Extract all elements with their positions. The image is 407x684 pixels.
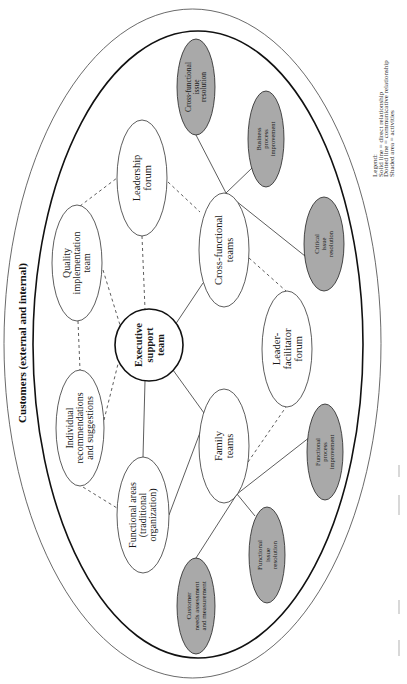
activity-functional-process-improvement[interactable]: Functional process improvement [307,404,343,500]
node-label: issue [320,237,327,250]
node-label: Leader- [271,332,282,365]
node-label: support [144,327,155,363]
node-label: teams [224,434,235,459]
node-label: team [155,334,166,356]
node-label: resolution [327,230,334,257]
node-label: and suggestions [84,396,95,460]
node-individual-recommendations[interactable]: Individual recommendations and suggestio… [56,370,104,486]
node-label: Family [213,430,224,461]
caption-marks [398,465,400,656]
node-label: process [321,442,328,462]
node-functional-areas[interactable]: Functional areas (traditional organizati… [117,457,169,573]
node-executive-support-team[interactable]: Executive support team [115,309,183,381]
node-label: resolution [271,541,279,569]
node-label: teams [224,238,235,263]
legend: Legend: Solid line = direct relationship… [371,60,396,177]
legend-line-shaded: Shaded area = activities [388,110,396,177]
node-label: forum [293,336,304,362]
node-label: and measurement [200,581,208,630]
node-label: Functional [314,438,321,466]
node-label: forum [142,165,153,191]
activity-functional-issue-resolution[interactable]: Functional issue resolution [249,507,285,603]
node-quality-implementation-team[interactable]: Quality implementation team [52,205,102,321]
node-label: improvement [328,434,335,469]
node-label: improvement [269,121,276,156]
activity-cross-functional-issue-resolution[interactable]: Cross-functional issue resolution [177,39,215,135]
node-label: team [81,253,92,273]
node-label: Critical [313,234,320,254]
node-label: process [262,129,269,149]
node-label: organization) [147,488,159,541]
node-leader-facilitator-forum[interactable]: Leader- facilitator forum [262,291,312,407]
node-cross-functional-teams[interactable]: Cross-functional teams [199,193,249,307]
node-family-teams[interactable]: Family teams [199,389,249,503]
node-label: Business [255,127,262,151]
activity-business-process-improvement[interactable]: Business process improvement [248,91,284,187]
node-label: Executive [133,323,144,367]
node-label: Leadership [131,155,142,202]
node-label: facilitator [282,328,293,369]
node-label: Cross-functional [213,215,224,285]
node-label: resolution [199,72,208,102]
activity-customer-needs-assessment[interactable]: Customer needs assessment and measuremen… [177,558,215,654]
activity-critical-issue-resolution[interactable]: Critical issue resolution [304,197,344,291]
node-leadership-forum[interactable]: Leadership forum [117,120,167,236]
customers-label: Customers (external and internal) [16,263,29,423]
organization-diagram: Customers (external and internal) Legend… [0,0,407,684]
